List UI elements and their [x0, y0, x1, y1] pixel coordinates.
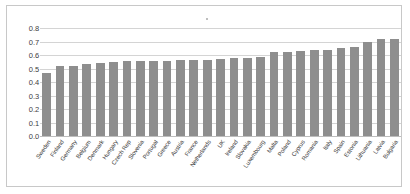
bar — [216, 59, 225, 136]
y-axis-tick-labels: 0.80.70.60.50.40.30.20.10.0 — [17, 28, 39, 136]
bar-slot — [254, 28, 267, 136]
y-tick-label: 0.0 — [29, 132, 39, 141]
bar-slot — [134, 28, 147, 136]
bar — [149, 61, 158, 136]
bar — [189, 60, 198, 136]
bar — [296, 51, 305, 136]
bar-slot — [361, 28, 374, 136]
y-tick-label: 0.3 — [29, 91, 39, 100]
bar-slot — [227, 28, 240, 136]
x-label-slot: Germany — [67, 137, 80, 193]
y-tick-label: 0.1 — [29, 118, 39, 127]
bar — [109, 62, 118, 136]
bar-slot — [201, 28, 214, 136]
bar-slot — [187, 28, 200, 136]
image-speck-artifact — [206, 18, 208, 20]
y-tick-label: 0.2 — [29, 105, 39, 114]
x-label-slot: Italy — [321, 137, 334, 193]
bar — [203, 60, 212, 136]
bar — [136, 61, 145, 136]
y-tick-label: 0.5 — [29, 64, 39, 73]
x-label-slot: UK — [214, 137, 227, 193]
bar-slot — [294, 28, 307, 136]
bar — [123, 61, 132, 136]
x-label-slot: Luxembourg — [254, 137, 267, 193]
x-label-slot: Romania — [308, 137, 321, 193]
bar — [310, 50, 319, 136]
x-label-slot: Bulgaria — [388, 137, 401, 193]
y-tick-label: 0.6 — [29, 51, 39, 60]
bar — [283, 52, 292, 136]
plot-area — [40, 28, 401, 136]
x-axis-category-labels: SwedenFinlandGermanyBelgiumDenmarkHungar… — [40, 137, 401, 193]
bar-slot — [94, 28, 107, 136]
bar-slot — [120, 28, 133, 136]
bar — [337, 48, 346, 136]
x-label-slot: Belgium — [80, 137, 93, 193]
bar-slot — [308, 28, 321, 136]
x-label-slot: Finland — [53, 137, 66, 193]
x-label-slot: Austria — [174, 137, 187, 193]
bar — [323, 50, 332, 136]
bar — [363, 42, 372, 136]
x-label-slot: Denmark — [94, 137, 107, 193]
bar — [176, 60, 185, 136]
x-label-slot: Lithuania — [361, 137, 374, 193]
x-label-slot: Greece — [160, 137, 173, 193]
bar-slot — [214, 28, 227, 136]
x-label-slot: Spain — [334, 137, 347, 193]
bar — [243, 58, 252, 136]
x-label-slot: Malta — [267, 137, 280, 193]
x-label-slot: Poland — [281, 137, 294, 193]
bar-slot — [174, 28, 187, 136]
bar-slot — [374, 28, 387, 136]
bar — [377, 39, 386, 136]
y-tick-label: 0.7 — [29, 37, 39, 46]
x-tick-label: Sweden — [35, 139, 52, 160]
x-label-slot: Cyprus — [294, 137, 307, 193]
bar-series — [40, 28, 401, 136]
bar — [350, 47, 359, 136]
bar-slot — [321, 28, 334, 136]
y-tick-label: 0.8 — [29, 24, 39, 33]
bar — [96, 63, 105, 136]
bar-slot — [107, 28, 120, 136]
x-label-slot: Czech Rep — [120, 137, 133, 193]
bar-slot — [348, 28, 361, 136]
y-tick-label: 0.4 — [29, 78, 39, 87]
x-tick-label: Italy — [322, 139, 333, 151]
bar — [42, 73, 51, 136]
x-label-slot: Latvia — [374, 137, 387, 193]
bar-slot — [147, 28, 160, 136]
bar — [82, 64, 91, 136]
x-label-slot: Ireland — [227, 137, 240, 193]
bar-slot — [334, 28, 347, 136]
bar-slot — [67, 28, 80, 136]
bar-slot — [281, 28, 294, 136]
bar — [69, 66, 78, 136]
x-label-slot: Portugal — [147, 137, 160, 193]
bar — [270, 52, 279, 136]
bar-slot — [241, 28, 254, 136]
bar — [230, 58, 239, 136]
x-label-slot: Slovenia — [134, 137, 147, 193]
bar — [56, 66, 65, 136]
bar-slot — [267, 28, 280, 136]
bar — [256, 57, 265, 136]
x-label-slot: Estonia — [348, 137, 361, 193]
chart-frame: 0.80.70.60.50.40.30.20.10.0 SwedenFinlan… — [6, 5, 402, 187]
x-tick-label: UK — [216, 139, 226, 149]
bar-slot — [388, 28, 401, 136]
x-label-slot: Sweden — [40, 137, 53, 193]
bar-slot — [160, 28, 173, 136]
bar — [163, 61, 172, 136]
x-label-slot: Netherlands — [201, 137, 214, 193]
bar-slot — [53, 28, 66, 136]
bar-slot — [80, 28, 93, 136]
bar — [390, 39, 399, 136]
bar-slot — [40, 28, 53, 136]
